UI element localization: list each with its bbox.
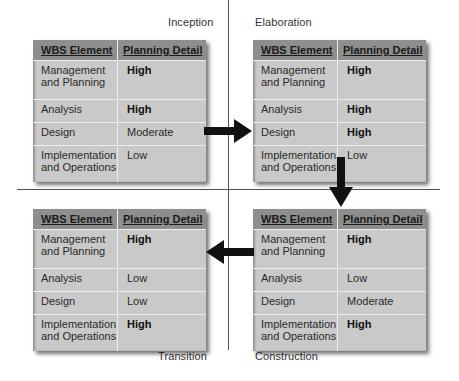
header-planning-detail: Planning Detail [338,40,426,60]
row-detail: Low [118,292,206,314]
header-wbs-element: WBS Element [253,40,338,60]
header-wbs-element: WBS Element [253,209,338,229]
table-row: DesignLow [33,291,206,314]
row-detail: High [338,61,426,99]
header-planning-detail: Planning Detail [338,209,426,229]
row-detail: Moderate [118,123,206,145]
arrow-down-icon [329,157,353,209]
row-detail: Moderate [338,292,426,314]
row-detail: High [118,61,206,99]
table-row: Management and PlanningHigh [33,229,206,268]
table-transition: WBS ElementPlanning Detail Management an… [33,209,206,351]
table-row: AnalysisLow [33,268,206,291]
table-construction: WBS ElementPlanning Detail Management an… [253,209,426,351]
vertical-divider [228,0,229,350]
row-element: Management and Planning [33,61,118,99]
table-inception: WBS ElementPlanning Detail Management an… [33,40,206,182]
table-row: Implementation and OperationsHigh [253,314,426,351]
table-row: AnalysisHigh [33,99,206,122]
table-row: Implementation and OperationsLow [33,145,206,182]
header-wbs-element: WBS Element [33,40,118,60]
arrow-left-icon [206,240,256,264]
row-element: Management and Planning [253,61,338,99]
header-planning-detail: Planning Detail [118,209,206,229]
table-row: Management and PlanningHigh [33,60,206,99]
row-element: Analysis [253,269,338,291]
table-row: AnalysisLow [253,268,426,291]
row-detail: High [118,100,206,122]
row-detail: Low [338,269,426,291]
row-element: Analysis [33,100,118,122]
table-row: DesignModerate [33,122,206,145]
row-element: Implementation and Operations [253,146,338,182]
row-detail: Low [118,269,206,291]
row-element: Design [253,123,338,145]
row-element: Analysis [253,100,338,122]
row-element: Design [33,292,118,314]
row-detail: High [118,315,206,351]
row-detail: High [338,230,426,268]
row-detail: Low [118,146,206,182]
row-detail: High [338,100,426,122]
row-element: Implementation and Operations [33,315,118,351]
header-wbs-element: WBS Element [33,209,118,229]
table-row: Management and PlanningHigh [253,60,426,99]
horizontal-divider [17,189,440,190]
row-element: Implementation and Operations [253,315,338,351]
row-element: Analysis [33,269,118,291]
header-planning-detail: Planning Detail [118,40,206,60]
phase-label-inception: Inception [168,16,214,28]
phase-label-elaboration: Elaboration [255,16,312,28]
row-element: Implementation and Operations [33,146,118,182]
row-element: Design [253,292,338,314]
table-row: Management and PlanningHigh [253,229,426,268]
row-detail: High [118,230,206,268]
phase-label-transition: Transition [158,350,207,362]
table-row: Implementation and OperationsHigh [33,314,206,351]
row-detail: High [338,315,426,351]
arrow-right-icon [204,119,254,143]
table-row: AnalysisHigh [253,99,426,122]
row-element: Design [33,123,118,145]
row-element: Management and Planning [33,230,118,268]
row-element: Management and Planning [253,230,338,268]
table-row: DesignModerate [253,291,426,314]
row-detail: High [338,123,426,145]
phase-label-construction: Construction [255,350,318,362]
table-row: DesignHigh [253,122,426,145]
